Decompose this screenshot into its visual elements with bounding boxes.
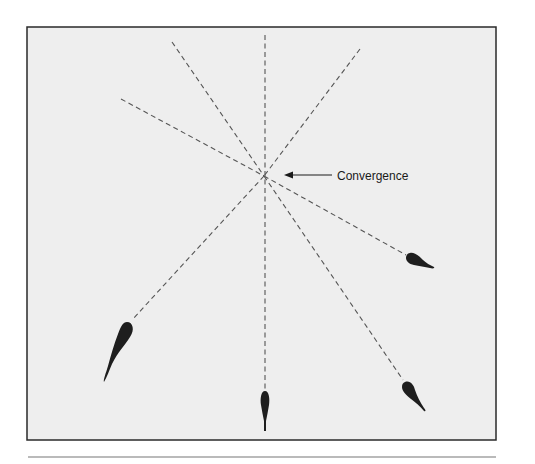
convergence-diagram: Convergence — [0, 0, 535, 464]
convergence-label: Convergence — [337, 169, 409, 183]
diagram-panel — [27, 27, 496, 440]
